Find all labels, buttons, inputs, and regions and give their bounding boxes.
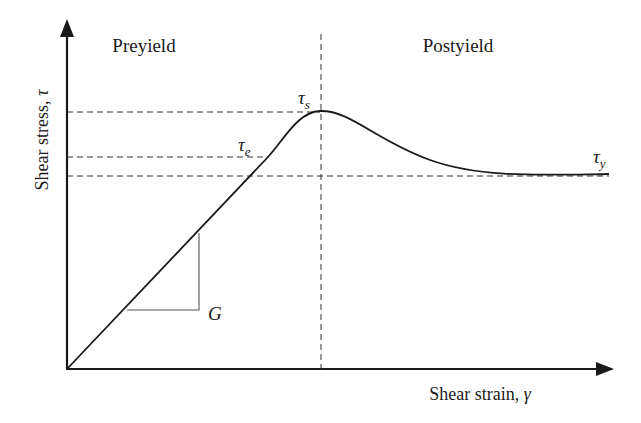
stress-strain-diagram: Preyield Postyield τs τe τy G Shear stra… bbox=[0, 0, 641, 423]
slope-triangle bbox=[127, 233, 199, 310]
postyield-label: Postyield bbox=[423, 35, 494, 56]
x-axis-label: Shear strain, γ bbox=[429, 384, 531, 404]
x-axis-arrow-icon bbox=[596, 362, 614, 376]
preyield-label: Preyield bbox=[112, 35, 176, 56]
shear-modulus-label: G bbox=[208, 303, 222, 324]
tau-y-label: τy bbox=[593, 146, 606, 171]
y-axis-arrow-icon bbox=[60, 19, 74, 37]
stress-strain-curve bbox=[67, 111, 609, 369]
tau-s-label: τs bbox=[298, 87, 310, 112]
y-axis bbox=[60, 19, 74, 370]
reference-lines bbox=[67, 34, 609, 369]
x-axis bbox=[66, 362, 614, 376]
y-axis-label: Shear stress, τ bbox=[32, 89, 52, 190]
tau-e-label: τe bbox=[238, 134, 251, 159]
